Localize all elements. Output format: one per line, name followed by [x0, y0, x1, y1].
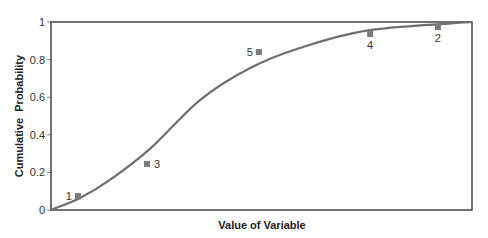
data-point-marker: [367, 31, 373, 37]
data-point-marker: [75, 193, 81, 199]
data-point-label: 3: [154, 158, 160, 170]
y-tick-label: 0.2: [30, 166, 45, 178]
data-point-label: 5: [247, 46, 253, 58]
y-tick-label: 0.6: [30, 91, 45, 103]
y-axis-ticks: 00.20.40.60.81: [30, 16, 51, 216]
data-points: 13542: [66, 24, 441, 202]
cdf-chart: 00.20.40.60.81 13542 Cumulative Probabil…: [0, 0, 488, 238]
data-point-marker: [144, 161, 150, 167]
x-axis-title: Value of Variable: [218, 219, 305, 231]
data-point-label: 4: [367, 39, 373, 51]
data-point-label: 1: [66, 190, 72, 202]
y-tick-label: 0.4: [30, 129, 45, 141]
y-tick-label: 0: [39, 204, 45, 216]
y-tick-label: 1: [39, 16, 45, 28]
data-point-marker: [435, 24, 441, 30]
data-point-marker: [256, 49, 262, 55]
data-point-label: 2: [435, 32, 441, 44]
y-tick-label: 0.8: [30, 54, 45, 66]
y-axis-title: Cumulative Probability: [13, 54, 25, 177]
